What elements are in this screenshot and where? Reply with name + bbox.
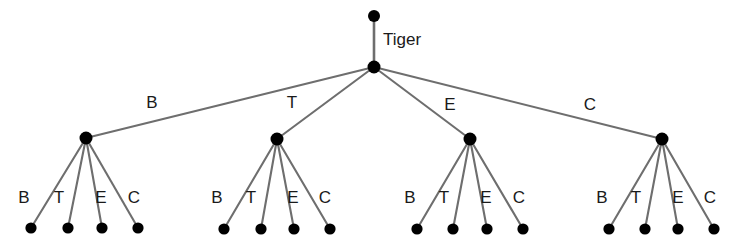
leaf-label-0-1: T xyxy=(54,188,64,207)
leaf-node-1-0[interactable] xyxy=(218,223,229,234)
leaf-label-3-2: E xyxy=(672,188,683,207)
leaf-label-3-1: T xyxy=(631,188,641,207)
leaf-node-1-3[interactable] xyxy=(324,223,335,234)
leaf-node-2-2[interactable] xyxy=(481,223,492,234)
branch-edge-label-0: B xyxy=(146,93,157,112)
branch-edge-b-0 xyxy=(86,67,374,138)
branch-edge-label-1: T xyxy=(287,93,297,112)
leaf-label-3-3: C xyxy=(704,188,716,207)
leaf-node-3-2[interactable] xyxy=(672,223,683,234)
labels-layer: TigerBBTECTBTECEBTECCBTEC xyxy=(18,30,716,207)
leaf-node-3-3[interactable] xyxy=(708,223,719,234)
root-label-tiger: Tiger xyxy=(383,30,421,49)
tree-diagram: TigerBBTECTBTECEBTECCBTEC xyxy=(0,0,735,247)
leaf-node-0-3[interactable] xyxy=(132,222,143,233)
leaf-label-0-3: C xyxy=(128,188,140,207)
branch-node-t-1[interactable] xyxy=(271,133,284,146)
leaf-node-0-0[interactable] xyxy=(25,222,36,233)
leaf-node-3-0[interactable] xyxy=(603,223,614,234)
leaf-label-0-2: E xyxy=(95,188,106,207)
leaf-label-2-0: B xyxy=(404,188,415,207)
branch-edge-label-2: E xyxy=(444,95,455,114)
leaf-node-1-1[interactable] xyxy=(255,223,266,234)
leaf-label-1-3: C xyxy=(319,188,331,207)
leaf-node-0-1[interactable] xyxy=(62,222,73,233)
leaf-label-1-2: E xyxy=(287,188,298,207)
leaf-node-3-1[interactable] xyxy=(639,223,650,234)
leaf-label-2-2: E xyxy=(480,188,491,207)
leaf-label-1-0: B xyxy=(211,188,222,207)
leaf-label-2-1: T xyxy=(439,188,449,207)
branch-node-b-0[interactable] xyxy=(80,132,93,145)
leaf-label-0-0: B xyxy=(18,188,29,207)
leaf-label-1-1: T xyxy=(246,188,256,207)
branch-edge-label-3: C xyxy=(584,95,596,114)
leaf-label-3-0: B xyxy=(596,188,607,207)
leaf-node-2-0[interactable] xyxy=(411,223,422,234)
leaf-label-2-3: C xyxy=(513,188,525,207)
leaf-node-2-1[interactable] xyxy=(447,223,458,234)
branch-node-c-3[interactable] xyxy=(656,133,669,146)
branch-node-e-2[interactable] xyxy=(464,133,477,146)
hub-node[interactable] xyxy=(368,61,381,74)
leaf-node-0-2[interactable] xyxy=(96,222,107,233)
root-node-tiger[interactable] xyxy=(368,10,380,22)
branch-edge-c-3 xyxy=(374,67,662,139)
tree-diagram-canvas: TigerBBTECTBTECEBTECCBTEC xyxy=(0,0,735,247)
leaf-node-1-2[interactable] xyxy=(288,223,299,234)
leaf-node-2-3[interactable] xyxy=(517,223,528,234)
